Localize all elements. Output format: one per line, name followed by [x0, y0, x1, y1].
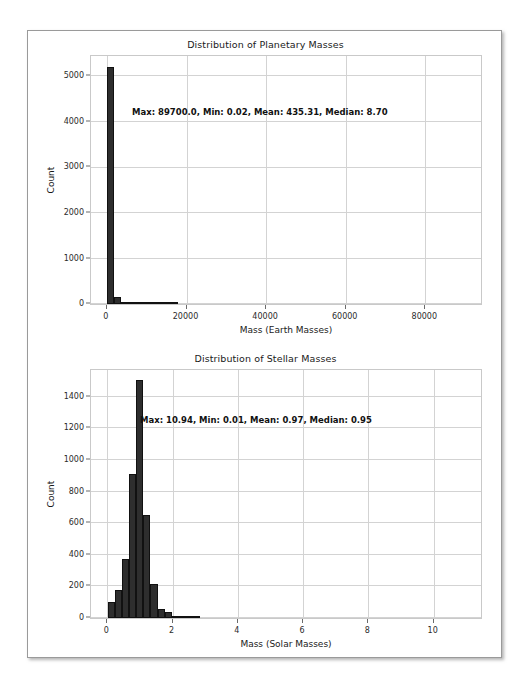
- histogram-bar: [129, 474, 136, 618]
- x-tick-mark: [302, 619, 303, 623]
- y-axis-label-stellar: Count: [46, 464, 56, 524]
- y-axis-ticks-stellar: 0200400600800100012001400: [28, 369, 84, 619]
- x-tick-label: 8: [365, 626, 370, 635]
- y-tick-mark: [86, 257, 90, 258]
- gridline-vertical: [173, 370, 174, 618]
- y-tick-label: 1000: [64, 455, 84, 464]
- x-tick-label: 10: [428, 626, 438, 635]
- histogram-bar: [158, 609, 165, 618]
- gridline-horizontal: [91, 396, 481, 397]
- y-tick-mark: [86, 617, 90, 618]
- y-tick-mark: [86, 166, 90, 167]
- x-tick-mark: [237, 619, 238, 623]
- x-tick-label: 20000: [173, 312, 198, 321]
- y-tick-label: 800: [69, 486, 84, 495]
- histogram-bar: [121, 302, 128, 304]
- y-tick-mark: [86, 585, 90, 586]
- x-tick-label: 40000: [252, 312, 277, 321]
- x-tick-mark: [367, 619, 368, 623]
- gridline-horizontal: [91, 258, 481, 259]
- gridline-vertical: [187, 56, 188, 304]
- histogram-bar: [186, 616, 193, 618]
- histogram-bar: [172, 616, 179, 618]
- y-tick-mark: [86, 427, 90, 428]
- histogram-bar: [171, 302, 178, 304]
- histogram-bar: [165, 612, 172, 618]
- x-tick-mark: [265, 305, 266, 309]
- x-axis-label-stellar: Mass (Solar Masses): [90, 639, 482, 649]
- x-tick-mark: [172, 619, 173, 623]
- x-tick-mark: [433, 619, 434, 623]
- y-tick-mark: [86, 303, 90, 304]
- chart-planetary-masses: Distribution of Planetary Masses 0100020…: [28, 33, 503, 345]
- x-tick-mark: [106, 305, 107, 309]
- y-tick-label: 1200: [64, 423, 84, 432]
- stats-annotation-planetary: Max: 89700.0, Min: 0.02, Mean: 435.31, M…: [132, 107, 388, 117]
- y-tick-label: 2000: [64, 207, 84, 216]
- x-tick-label: 0: [103, 312, 108, 321]
- gridline-horizontal: [91, 491, 481, 492]
- histogram-bar: [150, 584, 157, 618]
- x-axis-ticks-stellar: 0246810: [90, 624, 482, 638]
- stats-annotation-stellar: Max: 10.94, Min: 0.01, Mean: 0.97, Media…: [140, 415, 372, 425]
- x-tick-mark: [106, 619, 107, 623]
- x-tick-label: 80000: [412, 312, 437, 321]
- x-axis-ticks-planetary: 020000400006000080000: [90, 310, 482, 324]
- x-tick-mark: [424, 305, 425, 309]
- x-tick-label: 0: [104, 626, 109, 635]
- gridline-horizontal: [91, 427, 481, 428]
- gridline-vertical: [266, 56, 267, 304]
- y-tick-mark: [86, 395, 90, 396]
- chart-stellar-masses: Distribution of Stellar Masses 020040060…: [28, 349, 503, 655]
- histogram-bar: [108, 602, 115, 618]
- y-tick-label: 200: [69, 581, 84, 590]
- x-tick-label: 6: [300, 626, 305, 635]
- histogram-bar: [150, 302, 157, 304]
- histogram-bar: [122, 559, 129, 618]
- histogram-bar: [128, 302, 135, 304]
- x-tick-label: 4: [234, 626, 239, 635]
- y-tick-mark: [86, 522, 90, 523]
- y-tick-label: 4000: [64, 116, 84, 125]
- y-tick-mark: [86, 553, 90, 554]
- gridline-vertical: [107, 370, 108, 618]
- y-tick-label: 600: [69, 518, 84, 527]
- y-tick-label: 1000: [64, 253, 84, 262]
- gridline-vertical: [238, 370, 239, 618]
- gridline-vertical: [425, 56, 426, 304]
- gridline-horizontal: [91, 212, 481, 213]
- x-tick-mark: [186, 305, 187, 309]
- gridline-horizontal: [91, 75, 481, 76]
- gridline-vertical: [434, 370, 435, 618]
- x-tick-mark: [345, 305, 346, 309]
- y-tick-mark: [86, 490, 90, 491]
- x-tick-label: 60000: [332, 312, 357, 321]
- histogram-bar: [143, 515, 150, 618]
- histogram-bar: [157, 302, 164, 304]
- histogram-bar: [143, 302, 150, 304]
- histogram-bar: [164, 302, 171, 304]
- plot-area-stellar: [90, 369, 482, 619]
- histogram-bar: [115, 590, 122, 618]
- histogram-bar: [193, 616, 200, 618]
- plot-area-planetary: [90, 55, 482, 305]
- y-axis-label-planetary: Count: [46, 150, 56, 210]
- y-tick-mark: [86, 75, 90, 76]
- gridline-vertical: [346, 56, 347, 304]
- gridline-vertical: [368, 370, 369, 618]
- histogram-bar: [179, 616, 186, 618]
- chart-title-planetary: Distribution of Planetary Masses: [28, 39, 503, 50]
- gridline-horizontal: [91, 167, 481, 168]
- gridline-horizontal: [91, 121, 481, 122]
- y-tick-label: 0: [79, 299, 84, 308]
- y-tick-mark: [86, 211, 90, 212]
- y-tick-label: 0: [79, 613, 84, 622]
- x-axis-label-planetary: Mass (Earth Masses): [90, 325, 482, 335]
- y-tick-mark: [86, 459, 90, 460]
- document-page-frame: Distribution of Planetary Masses 0100020…: [27, 30, 502, 658]
- y-tick-label: 5000: [64, 71, 84, 80]
- gridline-vertical: [303, 370, 304, 618]
- y-tick-mark: [86, 120, 90, 121]
- y-tick-label: 1400: [64, 391, 84, 400]
- histogram-bar: [135, 302, 142, 304]
